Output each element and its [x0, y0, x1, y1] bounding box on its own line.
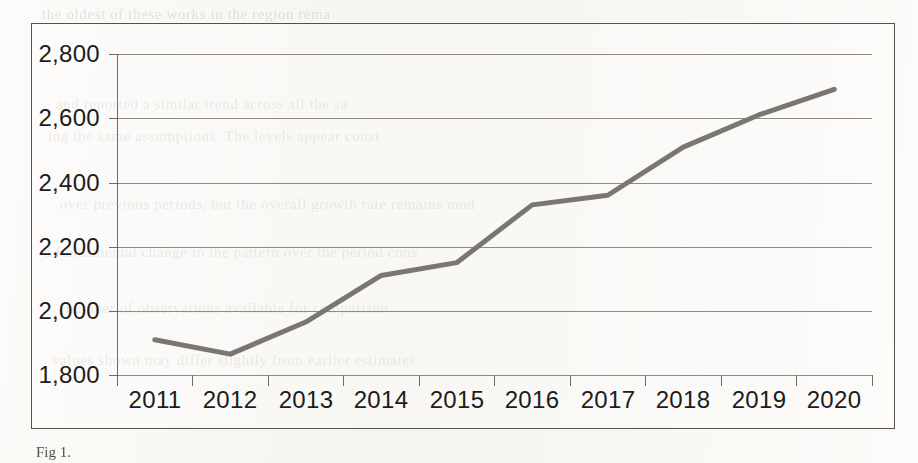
- x-axis-tick-label: 2011: [129, 386, 182, 414]
- x-axis-tick-label: 2018: [656, 386, 711, 414]
- y-axis-labels: 2,800 2,600 2,400 2,200 2,000 1,800: [0, 0, 100, 463]
- x-axis-tick-label: 2012: [203, 386, 258, 414]
- plot-area: [117, 54, 872, 375]
- x-axis-tick-label: 2016: [505, 386, 560, 414]
- x-axis-tick-label: 2013: [279, 386, 334, 414]
- y-axis-tick-label: 2,600: [38, 104, 100, 132]
- x-axis-tick-label: 2020: [807, 386, 862, 414]
- y-axis-tick-label: 2,800: [38, 40, 100, 68]
- figure-caption: Fig 1.: [36, 444, 71, 461]
- x-axis-tick-label: 2017: [581, 386, 636, 414]
- x-axis-tick-label: 2015: [430, 386, 485, 414]
- gridline: [117, 118, 872, 119]
- scanned-page: the oldest of these works in the region …: [0, 0, 918, 463]
- gridline: [117, 311, 872, 312]
- y-axis-tick-label: 2,400: [38, 169, 100, 197]
- x-axis-tick-label: 2014: [354, 386, 409, 414]
- y-axis-tick-label: 1,800: [38, 361, 100, 389]
- y-axis-tick-label: 2,000: [38, 297, 100, 325]
- y-axis-tick-label: 2,200: [38, 233, 100, 261]
- x-axis-tick-label: 2019: [732, 386, 787, 414]
- gridline: [117, 183, 872, 184]
- gridline: [117, 54, 872, 55]
- y-axis-line: [117, 54, 118, 376]
- gridline: [117, 247, 872, 248]
